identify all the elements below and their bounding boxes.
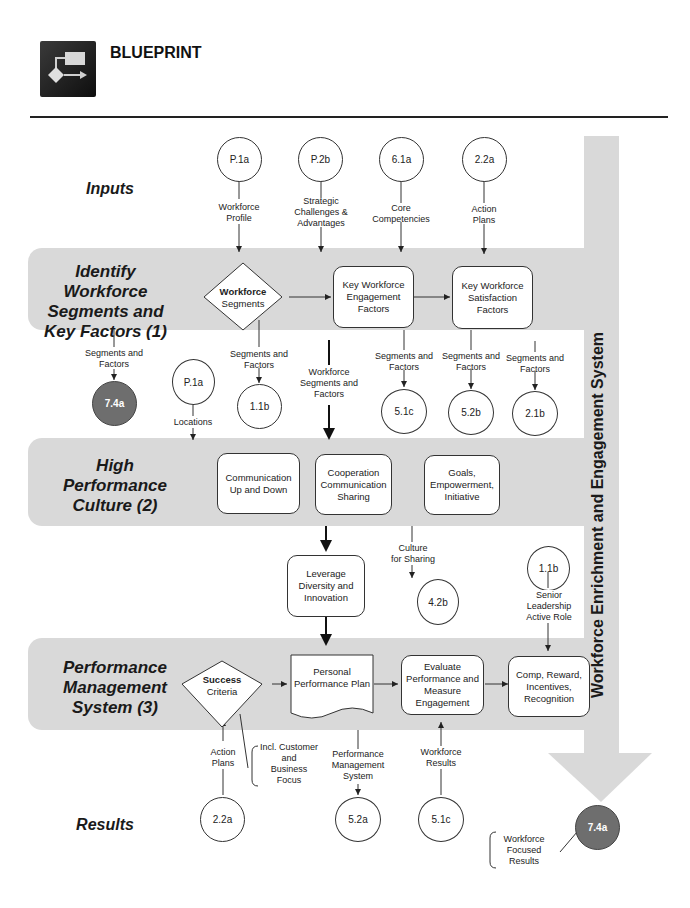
locations-label: Locations	[160, 417, 226, 428]
label-line: Senior	[520, 590, 578, 601]
label-line: Culture	[387, 543, 439, 554]
label-line: Factors	[495, 364, 575, 375]
workforce-segments-flow-label: Workforce Segments and Factors	[289, 367, 369, 400]
ref-7-4a-final-circle[interactable]: 7.4a	[575, 805, 620, 850]
communication-up-down-box[interactable]: Communication Up and Down	[217, 453, 300, 514]
label-line: and	[253, 753, 325, 764]
diamond-rest: Criteria	[187, 686, 257, 698]
label-line: Active Role	[520, 612, 578, 623]
culture-for-sharing-label: Culture for Sharing	[387, 543, 439, 565]
label-line: for Sharing	[387, 554, 439, 565]
key-satisfaction-factors-box[interactable]: Key Workforce Satisfaction Factors	[452, 266, 533, 329]
label-line: Segments and	[219, 349, 299, 360]
diamond-rest: Segments	[208, 298, 278, 310]
label-line: Segments and	[74, 348, 154, 359]
label-line: Leadership	[520, 601, 578, 612]
label-line: System	[321, 771, 395, 782]
evaluate-performance-box[interactable]: Evaluate Performance and Measure Engagem…	[401, 655, 484, 715]
label-line: Workforce	[289, 367, 369, 378]
goals-empowerment-box[interactable]: Goals, Empowerment, Initiative	[424, 455, 500, 515]
pms-output-label: Performance Management System	[321, 749, 395, 782]
label-line: Business	[253, 764, 325, 775]
personal-plan-text: Personal Performance Plan	[291, 666, 373, 690]
mid-label-1-1b: Segments and Factors	[219, 349, 299, 371]
workforce-results-label: Workforce Results	[413, 747, 469, 769]
success-criteria-text[interactable]: Success Criteria	[187, 674, 257, 698]
cooperation-communication-box[interactable]: Cooperation Communication Sharing	[315, 454, 392, 515]
mid-label-7-4a: Segments and Factors	[74, 348, 154, 370]
label-line: Factors	[74, 359, 154, 370]
label-line: Plans	[204, 758, 242, 769]
label-line: Workforce	[494, 834, 554, 845]
label-line: Factors	[289, 389, 369, 400]
label-line: Factors	[219, 360, 299, 371]
label-line: Results	[413, 758, 469, 769]
label-line: Segments and	[495, 353, 575, 364]
incl-customer-label: Incl. Customer and Business Focus	[253, 742, 325, 786]
label-line: Management	[321, 760, 395, 771]
diamond-bold: Workforce	[208, 286, 278, 298]
label-line: Action	[204, 747, 242, 758]
senior-leadership-label: Senior Leadership Active Role	[520, 590, 578, 623]
workforce-focused-results-label: Workforce Focused Results	[494, 834, 554, 867]
key-engagement-factors-box[interactable]: Key Workforce Engagement Factors	[333, 266, 414, 328]
label-line: Focus	[253, 775, 325, 786]
label-line: Incl. Customer	[253, 742, 325, 753]
label-line: Segments and	[289, 378, 369, 389]
label-line: Workforce	[413, 747, 469, 758]
personal-performance-plan-doc[interactable]: Personal Performance Plan	[291, 666, 373, 690]
action-plans-label: Action Plans	[204, 747, 242, 769]
diamond-bold: Success	[187, 674, 257, 686]
label-line: Focused	[494, 845, 554, 856]
label-line: Results	[494, 856, 554, 867]
leverage-diversity-box[interactable]: Leverage Diversity and Innovation	[287, 555, 365, 617]
label-line: Performance	[321, 749, 395, 760]
comp-reward-box[interactable]: Comp, Reward, Incentives, Recognition	[508, 656, 590, 717]
mid-label-2-1b: Segments and Factors	[495, 353, 575, 375]
workforce-segments-text: Workforce Segments	[208, 286, 278, 310]
